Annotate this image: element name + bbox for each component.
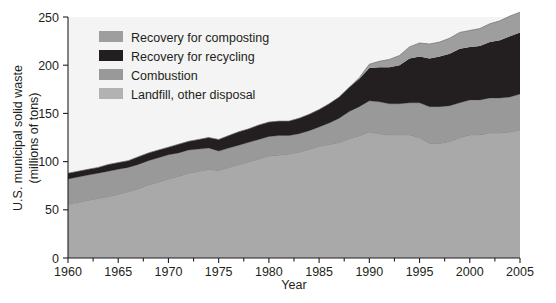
legend-label: Combustion <box>131 69 198 83</box>
y-tick-label: 100 <box>38 155 59 169</box>
y-tick-label: 200 <box>38 59 59 73</box>
x-axis-title: Year <box>281 278 306 292</box>
x-tick-label: 2000 <box>456 265 484 279</box>
legend-swatch <box>99 69 123 80</box>
chart-container: 050100150200250 196019651970197519801985… <box>0 0 556 303</box>
y-axis-title-line1: U.S. municipal solid waste <box>11 65 25 211</box>
x-tick-label: 1960 <box>54 265 82 279</box>
x-tick-label: 1975 <box>205 265 233 279</box>
x-tick-label: 1965 <box>104 265 132 279</box>
x-tick-label: 2005 <box>506 265 534 279</box>
x-tick-label: 1980 <box>255 265 283 279</box>
y-tick-label: 250 <box>38 11 59 25</box>
x-tick-label: 1995 <box>406 265 434 279</box>
y-axis-title-line2: (millions of tons) <box>27 93 41 184</box>
y-tick-label: 0 <box>52 252 59 266</box>
legend-swatch <box>99 50 123 61</box>
x-tick-label: 1990 <box>355 265 383 279</box>
y-tick-label: 150 <box>38 107 59 121</box>
legend-label: Recovery for recycling <box>131 50 255 64</box>
x-tick-label: 1985 <box>305 265 333 279</box>
legend-label: Landfill, other disposal <box>131 88 255 102</box>
legend-label: Recovery for composting <box>131 31 269 45</box>
y-tick-label: 50 <box>45 203 59 217</box>
waste-area-chart: 050100150200250 196019651970197519801985… <box>0 0 556 303</box>
legend-swatch <box>99 88 123 99</box>
x-tick-label: 1970 <box>155 265 183 279</box>
legend-swatch <box>99 31 123 42</box>
